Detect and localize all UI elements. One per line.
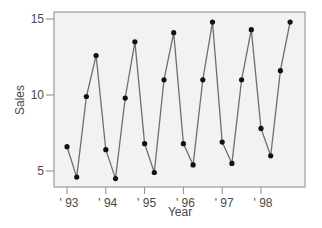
x-tick-label: ' 98 — [254, 196, 273, 210]
x-tick-label: ' 97 — [215, 196, 234, 210]
data-point — [94, 53, 99, 58]
data-point — [239, 77, 244, 82]
data-point — [278, 68, 283, 73]
data-point — [161, 77, 166, 82]
data-point — [113, 176, 118, 181]
data-point — [171, 30, 176, 35]
data-point — [123, 95, 128, 100]
y-tick-label: 5 — [37, 164, 44, 178]
y-axis: 51015 — [31, 12, 54, 178]
data-point — [84, 94, 89, 99]
y-tick-label: 10 — [31, 88, 45, 102]
data-point — [64, 144, 69, 149]
x-axis: ' 93' 94' 95' 96' 97' 98 — [60, 187, 273, 210]
data-point — [132, 39, 137, 44]
data-point — [288, 19, 293, 24]
x-axis-title: Year — [168, 205, 192, 219]
data-point — [200, 77, 205, 82]
data-point — [142, 141, 147, 146]
y-tick-label: 15 — [31, 12, 45, 26]
data-point — [103, 147, 108, 152]
x-tick-label: ' 95 — [137, 196, 156, 210]
data-point — [220, 140, 225, 145]
data-point — [191, 162, 196, 167]
y-axis-title: Sales — [13, 85, 27, 115]
x-tick-label: ' 94 — [98, 196, 117, 210]
data-point — [229, 161, 234, 166]
data-point — [268, 153, 273, 158]
data-point — [210, 19, 215, 24]
data-point — [181, 141, 186, 146]
sales-line-chart: 51015 ' 93' 94' 95' 96' 97' 98 Sales Yea… — [0, 0, 322, 228]
data-point — [74, 174, 79, 179]
x-tick-label: ' 93 — [60, 196, 79, 210]
data-point — [258, 126, 263, 131]
data-point — [249, 27, 254, 32]
data-point — [152, 170, 157, 175]
